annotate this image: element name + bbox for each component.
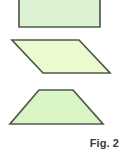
geometry-figure-canvas: [0, 0, 123, 152]
parallelogram-shape: [12, 40, 110, 73]
rectangle-shape: [19, 0, 100, 27]
trapezoid-shape: [10, 90, 103, 124]
figure-caption: Fig. 2: [90, 138, 119, 149]
figure-container: Fig. 2: [0, 0, 123, 152]
